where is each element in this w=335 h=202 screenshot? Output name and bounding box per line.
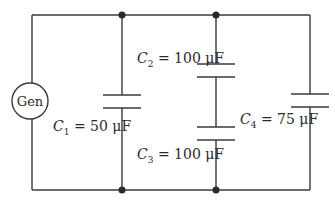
junction-dot <box>213 12 220 19</box>
capacitor-c3: C3 = 100 μF <box>137 127 235 165</box>
capacitor-c1: C1 = 50 μF <box>53 95 141 137</box>
junctions <box>119 12 220 194</box>
capacitor-c1-label: C1 = 50 μF <box>53 118 131 137</box>
capacitor-c4: C4 = 75 μF <box>240 94 329 130</box>
capacitor-c3-label: C3 = 100 μF <box>137 146 224 165</box>
capacitor-c2-label: C2 = 100 μF <box>137 50 224 69</box>
junction-dot <box>119 12 126 19</box>
capacitor-c4-label: C4 = 75 μF <box>240 111 318 130</box>
junction-dot <box>119 187 126 194</box>
circuit-diagram: Gen C1 = 50 μF C2 = 100 μF C3 = 100 μF C… <box>0 0 335 202</box>
generator-label: Gen <box>17 94 44 109</box>
junction-dot <box>213 187 220 194</box>
wires <box>32 15 310 190</box>
generator: Gen <box>12 83 48 119</box>
capacitor-c2: C2 = 100 μF <box>137 50 235 77</box>
